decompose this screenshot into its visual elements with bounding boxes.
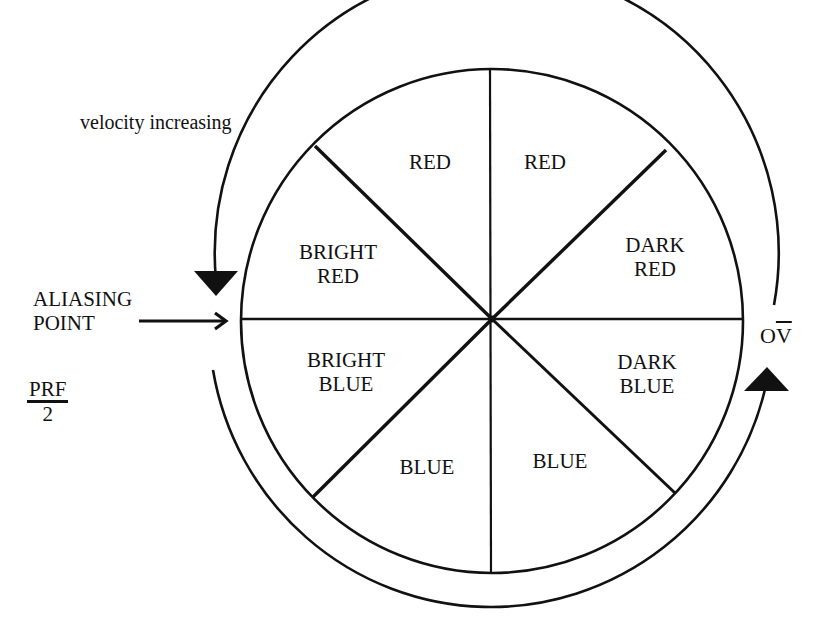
sector-label-right-lower: DARK BLUE bbox=[617, 350, 677, 398]
sector-right-upper-line2: RED bbox=[625, 257, 685, 281]
sector-left-upper-line2: RED bbox=[299, 264, 377, 288]
sector-left-lower-line1: BRIGHT bbox=[307, 348, 385, 372]
prf-denominator: 2 bbox=[27, 403, 68, 426]
arrowhead-down-icon bbox=[194, 271, 238, 296]
prf-over-two-fraction: PRF 2 bbox=[27, 378, 68, 426]
sector-top-left-line1: RED bbox=[409, 150, 451, 174]
sector-bottom-left-line1: BLUE bbox=[400, 455, 455, 479]
sector-label-top-left: RED bbox=[409, 150, 451, 174]
sector-label-top-right: RED bbox=[524, 150, 566, 174]
arrowhead-up-icon bbox=[744, 367, 789, 391]
sector-right-upper-line1: DARK bbox=[625, 233, 685, 257]
sector-bottom-right-line1: BLUE bbox=[533, 449, 588, 473]
sector-left-upper-line1: BRIGHT bbox=[299, 240, 377, 264]
sector-right-lower-line1: DARK bbox=[617, 350, 677, 374]
prf-numerator: PRF bbox=[27, 378, 68, 403]
aliasing-point-line2: POINT bbox=[33, 311, 132, 335]
sector-left-lower-line2: BLUE bbox=[307, 372, 385, 396]
sector-right-lower-line2: BLUE bbox=[617, 374, 677, 398]
diagonal-upper-left bbox=[315, 146, 492, 319]
ov-overbar-v: V bbox=[776, 323, 792, 348]
sector-top-right-line1: RED bbox=[524, 150, 566, 174]
velocity-color-wheel-diagram: velocity increasing ALIASING POINT PRF 2… bbox=[0, 0, 817, 627]
sector-label-left-upper: BRIGHT RED bbox=[299, 240, 377, 288]
outer-ring-lower-arc bbox=[213, 370, 766, 607]
sector-label-bottom-left: BLUE bbox=[400, 455, 455, 479]
center-point bbox=[489, 316, 496, 323]
sector-label-right-upper: DARK RED bbox=[625, 233, 685, 281]
sector-label-left-lower: BRIGHT BLUE bbox=[307, 348, 385, 396]
aliasing-point-label: ALIASING POINT bbox=[33, 287, 132, 335]
velocity-increasing-label: velocity increasing bbox=[80, 111, 232, 134]
ov-prefix: O bbox=[760, 323, 776, 348]
ov-label: OV bbox=[760, 323, 792, 349]
sector-label-bottom-right: BLUE bbox=[533, 449, 588, 473]
aliasing-point-line1: ALIASING bbox=[33, 287, 132, 311]
